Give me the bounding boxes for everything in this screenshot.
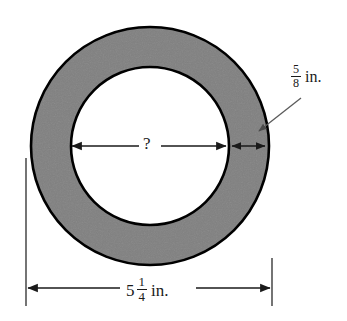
geometry-figure: 5 8 in. 5 1 4 in. ?: [0, 0, 347, 321]
annulus-diagram-canvas: [0, 0, 347, 321]
